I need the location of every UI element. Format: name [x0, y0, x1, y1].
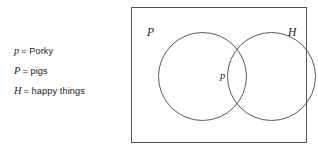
legend-symbol-pigs: P [14, 65, 21, 76]
legend-text-pigs: pigs [30, 66, 47, 76]
legend-equals: = [20, 46, 29, 56]
legend: p=Porky P=pigs H=happy things [14, 41, 124, 101]
legend-equals: = [22, 86, 31, 96]
legend-symbol-porky: p [14, 45, 20, 56]
legend-row: P=pigs [14, 61, 124, 81]
legend-row: H=happy things [14, 81, 124, 101]
universe-box: P H p [131, 7, 307, 143]
legend-text-porky: Porky [29, 46, 53, 56]
legend-row: p=Porky [14, 41, 124, 61]
element-label-p: p [220, 71, 225, 82]
figure-caption-partial [186, 150, 270, 157]
figure-root: p=Porky P=pigs H=happy things P H p [0, 0, 318, 157]
legend-symbol-happy-things: H [14, 85, 22, 96]
venn-circle-happy-things [227, 32, 316, 121]
legend-equals: = [21, 66, 30, 76]
set-label-H: H [288, 27, 296, 39]
set-label-P: P [147, 27, 154, 39]
legend-text-happy-things: happy things [32, 86, 85, 96]
